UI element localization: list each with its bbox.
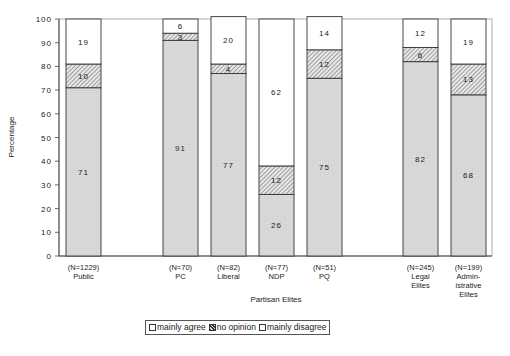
category-n-label: (N=1229) <box>68 263 100 272</box>
x-axis-label: Partisan Elites <box>250 295 301 304</box>
legend-item-disagree: mainly disagree <box>259 321 327 334</box>
bar-value-label: 6 <box>178 22 183 31</box>
bar-value-label: 75 <box>319 163 330 172</box>
y-tick-label: 90 <box>41 39 52 48</box>
category-label: NDP <box>269 272 285 281</box>
bar-group: 9136 <box>163 19 198 256</box>
bar-value-label: 3 <box>178 33 183 42</box>
x-axis-labels: (N=1229)Public(N=70)PC(N=82)Liberal(N=77… <box>68 263 483 299</box>
legend: mainly agree no opinion mainly disagree <box>145 320 330 335</box>
category-n-label: (N=199) <box>455 263 483 272</box>
bar-value-label: 10 <box>78 72 89 81</box>
bar-value-label: 91 <box>175 144 186 153</box>
bar-value-label: 62 <box>271 88 282 97</box>
bar-value-label: 6 <box>418 51 423 60</box>
category-n-label: (N=51) <box>313 263 337 272</box>
y-tick-label: 60 <box>41 110 52 119</box>
category-label: Admin- <box>457 272 481 281</box>
bar-group: 751214 <box>307 17 342 256</box>
bar-value-label: 19 <box>78 38 89 47</box>
category-label: Legal <box>411 272 430 281</box>
stacked-bar-chart: 0102030405060708090100 71101991367742026… <box>0 0 510 356</box>
legend-swatch-agree-icon <box>149 324 156 331</box>
legend-item-no-opinion: no opinion <box>209 321 256 334</box>
bar-group: 681319 <box>451 19 486 256</box>
bar-value-label: 12 <box>319 60 330 69</box>
bar-group: 82612 <box>403 19 438 256</box>
legend-swatch-disagree-icon <box>259 324 266 331</box>
bar-value-label: 14 <box>319 29 330 38</box>
y-tick-label: 30 <box>41 181 52 190</box>
bar-value-label: 12 <box>271 176 282 185</box>
category-label: PC <box>175 272 186 281</box>
bar-group: 77420 <box>211 17 246 256</box>
category-label: istrative <box>456 281 482 290</box>
bar-group: 261262 <box>259 19 294 256</box>
category-label: Public <box>73 272 94 281</box>
bar-value-label: 77 <box>223 161 234 170</box>
y-tick-label: 80 <box>41 62 52 71</box>
y-tick-label: 20 <box>41 205 52 214</box>
category-label: PQ <box>319 272 330 281</box>
category-label: Liberal <box>217 272 240 281</box>
bar-value-label: 68 <box>463 171 474 180</box>
bar-value-label: 13 <box>463 75 474 84</box>
bar-group: 711019 <box>66 19 101 256</box>
y-tick-label: 70 <box>41 86 52 95</box>
y-tick-label: 50 <box>41 134 52 143</box>
y-tick-label: 100 <box>36 15 52 24</box>
bar-value-label: 71 <box>78 168 89 177</box>
category-label: Elites <box>411 281 430 290</box>
category-n-label: (N=82) <box>217 263 241 272</box>
bar-value-label: 19 <box>463 38 474 47</box>
category-n-label: (N=245) <box>407 263 435 272</box>
category-n-label: (N=77) <box>265 263 289 272</box>
y-axis-ticks: 0102030405060708090100 <box>36 15 59 261</box>
bar-value-label: 4 <box>226 65 231 74</box>
legend-swatch-no-opinion-icon <box>209 324 216 331</box>
bar-value-label: 26 <box>271 221 282 230</box>
bar-value-label: 20 <box>223 36 234 45</box>
y-tick-label: 10 <box>41 228 52 237</box>
category-label: Elites <box>459 290 478 299</box>
y-axis-label: Percentage <box>7 116 16 157</box>
bars: 71101991367742026126275121482612681319 <box>66 17 486 256</box>
y-tick-label: 0 <box>47 252 52 261</box>
legend-item-agree: mainly agree <box>149 321 206 334</box>
category-n-label: (N=70) <box>169 263 193 272</box>
bar-value-label: 82 <box>415 155 426 164</box>
y-tick-label: 40 <box>41 157 52 166</box>
bar-value-label: 12 <box>415 29 426 38</box>
